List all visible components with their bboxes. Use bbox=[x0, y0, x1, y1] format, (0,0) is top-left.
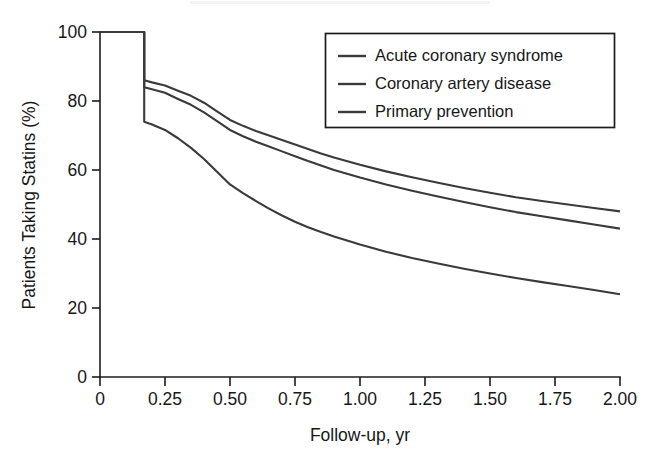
chart-legend: Acute coronary syndromeCoronary artery d… bbox=[326, 34, 615, 128]
x-tick-label: 0.50 bbox=[213, 389, 247, 409]
x-tick-label: 1.25 bbox=[408, 389, 442, 409]
x-tick-label: 0 bbox=[95, 389, 105, 409]
y-axis-title: Patients Taking Statins (%) bbox=[19, 101, 39, 310]
chart-canvas: 020406080100 00.250.500.751.001.251.501.… bbox=[0, 0, 669, 466]
y-tick-label: 60 bbox=[68, 160, 88, 180]
y-tick-label: 100 bbox=[58, 22, 87, 42]
y-axis-ticks: 020406080100 bbox=[58, 22, 100, 387]
legend-label-2: Primary prevention bbox=[375, 102, 513, 120]
legend-label-0: Acute coronary syndrome bbox=[375, 46, 563, 64]
y-tick-label: 0 bbox=[77, 367, 87, 387]
statin-adherence-figure: 020406080100 00.250.500.751.001.251.501.… bbox=[0, 0, 669, 466]
y-tick-label: 40 bbox=[68, 229, 88, 249]
x-tick-label: 2.00 bbox=[603, 389, 637, 409]
x-tick-label: 1.50 bbox=[473, 389, 507, 409]
x-tick-label: 0.25 bbox=[148, 389, 182, 409]
x-tick-label: 0.75 bbox=[278, 389, 312, 409]
x-axis-ticks: 00.250.500.751.001.251.501.752.00 bbox=[95, 377, 637, 409]
x-axis-title: Follow-up, yr bbox=[310, 425, 410, 445]
y-tick-label: 80 bbox=[68, 91, 88, 111]
y-tick-label: 20 bbox=[68, 298, 88, 318]
scan-artifact bbox=[190, 1, 490, 4]
legend-label-1: Coronary artery disease bbox=[375, 74, 551, 92]
x-tick-label: 1.75 bbox=[538, 389, 572, 409]
x-tick-label: 1.00 bbox=[343, 389, 377, 409]
